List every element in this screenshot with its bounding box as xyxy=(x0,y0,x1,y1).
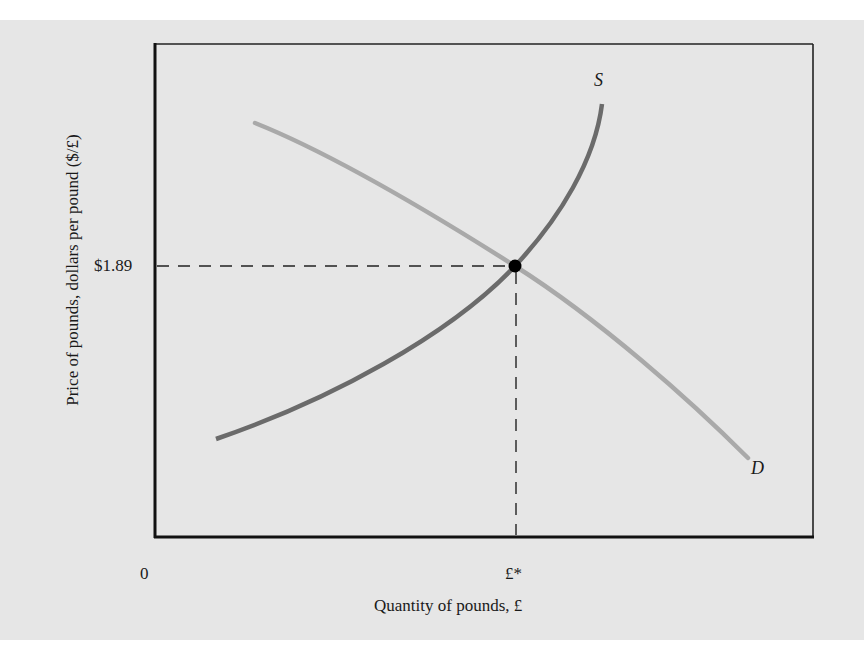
demand-curve-label: D xyxy=(751,458,764,479)
equilibrium-point xyxy=(509,260,522,273)
supply-curve-label: S xyxy=(594,70,603,91)
supply-demand-chart xyxy=(0,0,864,656)
x-tick-equilibrium-quantity: £* xyxy=(505,564,522,584)
supply-curve xyxy=(216,104,602,439)
y-tick-equilibrium-price: $1.89 xyxy=(94,256,132,276)
y-axis-label: Price of pounds, dollars per pound ($/£) xyxy=(63,134,83,405)
x-axis-label: Quantity of pounds, £ xyxy=(374,596,522,616)
demand-curve xyxy=(255,123,748,458)
x-tick-origin: 0 xyxy=(140,564,149,584)
